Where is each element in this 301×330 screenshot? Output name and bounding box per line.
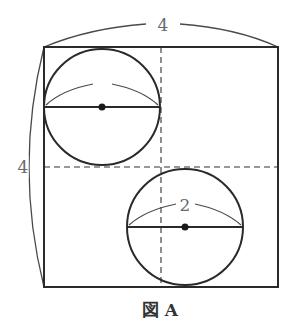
figure-caption: 図 A (142, 296, 178, 321)
geometry-figure: 4 4 2 図 A (0, 0, 301, 330)
circle-lower-right-center-dot (182, 224, 189, 231)
circle-diameter-label: 2 (178, 197, 193, 214)
left-dimension-label: 4 (18, 156, 29, 179)
circle-lower-right-dim-arc-right (195, 204, 241, 225)
circle-upper-left-center-dot (99, 104, 106, 111)
circle-upper-left-dim-arc-right (112, 84, 158, 105)
top-dimension-arc-right (180, 24, 278, 47)
circle-lower-right-dim-arc-left (129, 204, 176, 225)
circle-upper-left-dim-arc-left (46, 84, 93, 105)
left-dimension-arc (29, 47, 44, 287)
figure-canvas (0, 0, 301, 330)
top-dimension-label: 4 (156, 17, 171, 34)
top-dimension-arc-left (44, 24, 146, 47)
